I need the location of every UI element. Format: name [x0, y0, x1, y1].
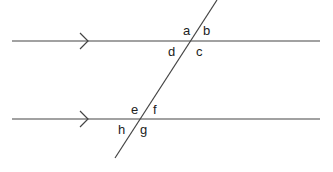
angle-label-e: e [131, 102, 138, 117]
angle-label-a: a [183, 23, 191, 38]
angle-label-h: h [118, 122, 125, 137]
angle-label-d: d [168, 44, 175, 59]
transversal-line [115, 0, 217, 158]
angle-label-f: f [153, 102, 157, 117]
angle-label-c: c [196, 44, 203, 59]
angle-label-b: b [203, 23, 210, 38]
angle-label-g: g [140, 122, 147, 137]
parallel-lines-diagram: abdcefhg [0, 0, 333, 172]
